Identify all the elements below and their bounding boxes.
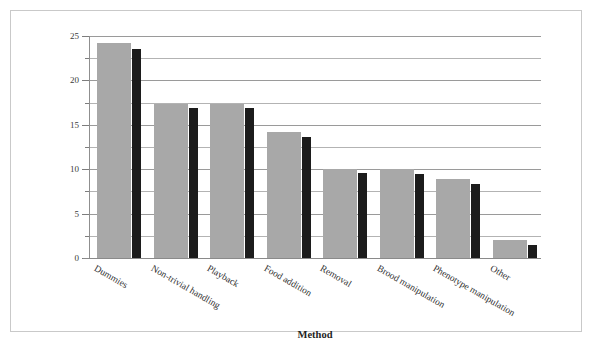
y-axis-tick-label: 15 <box>70 120 79 129</box>
bar-group <box>434 36 485 258</box>
bar-group <box>321 36 372 258</box>
bar <box>132 49 141 258</box>
bar <box>302 137 311 258</box>
plot-area: 0510152025 DummiesNon-trivial handlingPl… <box>89 36 541 258</box>
bar <box>380 169 414 258</box>
bar <box>471 184 480 258</box>
bar <box>189 108 198 258</box>
bar <box>97 43 131 258</box>
y-axis-tick-label: 25 <box>70 32 79 41</box>
y-axis-tick <box>82 214 89 215</box>
y-axis-tick-label: 0 <box>75 254 80 263</box>
y-axis-tick-label: 5 <box>75 209 80 218</box>
bar-group <box>265 36 316 258</box>
bar-group <box>491 36 542 258</box>
y-axis-tick <box>82 169 89 170</box>
bar <box>528 245 537 258</box>
bar-group <box>95 36 146 258</box>
x-axis-tick-label: Playback <box>205 264 240 290</box>
bar-series-container <box>89 36 541 258</box>
bar <box>415 174 424 258</box>
bar-group <box>378 36 429 258</box>
x-axis-title: Method <box>298 329 333 340</box>
x-axis-tick-label: Dummies <box>92 264 129 291</box>
y-axis-tick-label: 20 <box>70 76 79 85</box>
x-axis-tick-label: Food addition <box>262 264 313 299</box>
chart-figure: Percentage of papers 0510152025 DummiesN… <box>10 10 582 332</box>
bar <box>154 104 188 258</box>
y-axis-tick <box>82 125 89 126</box>
x-axis-tick-label: Removal <box>318 264 352 289</box>
x-axis-line <box>83 258 541 259</box>
bar <box>493 240 527 258</box>
bar <box>358 173 367 258</box>
y-axis-tick-label: 10 <box>70 165 79 174</box>
y-axis-tick <box>82 80 89 81</box>
bar <box>210 104 244 258</box>
bar <box>267 132 301 258</box>
bar <box>323 169 357 258</box>
x-axis-tick-label: Other <box>488 264 511 283</box>
bar <box>436 179 470 258</box>
bar <box>245 108 254 258</box>
bar-group <box>152 36 203 258</box>
y-axis-tick <box>82 36 89 37</box>
bar-group <box>208 36 259 258</box>
